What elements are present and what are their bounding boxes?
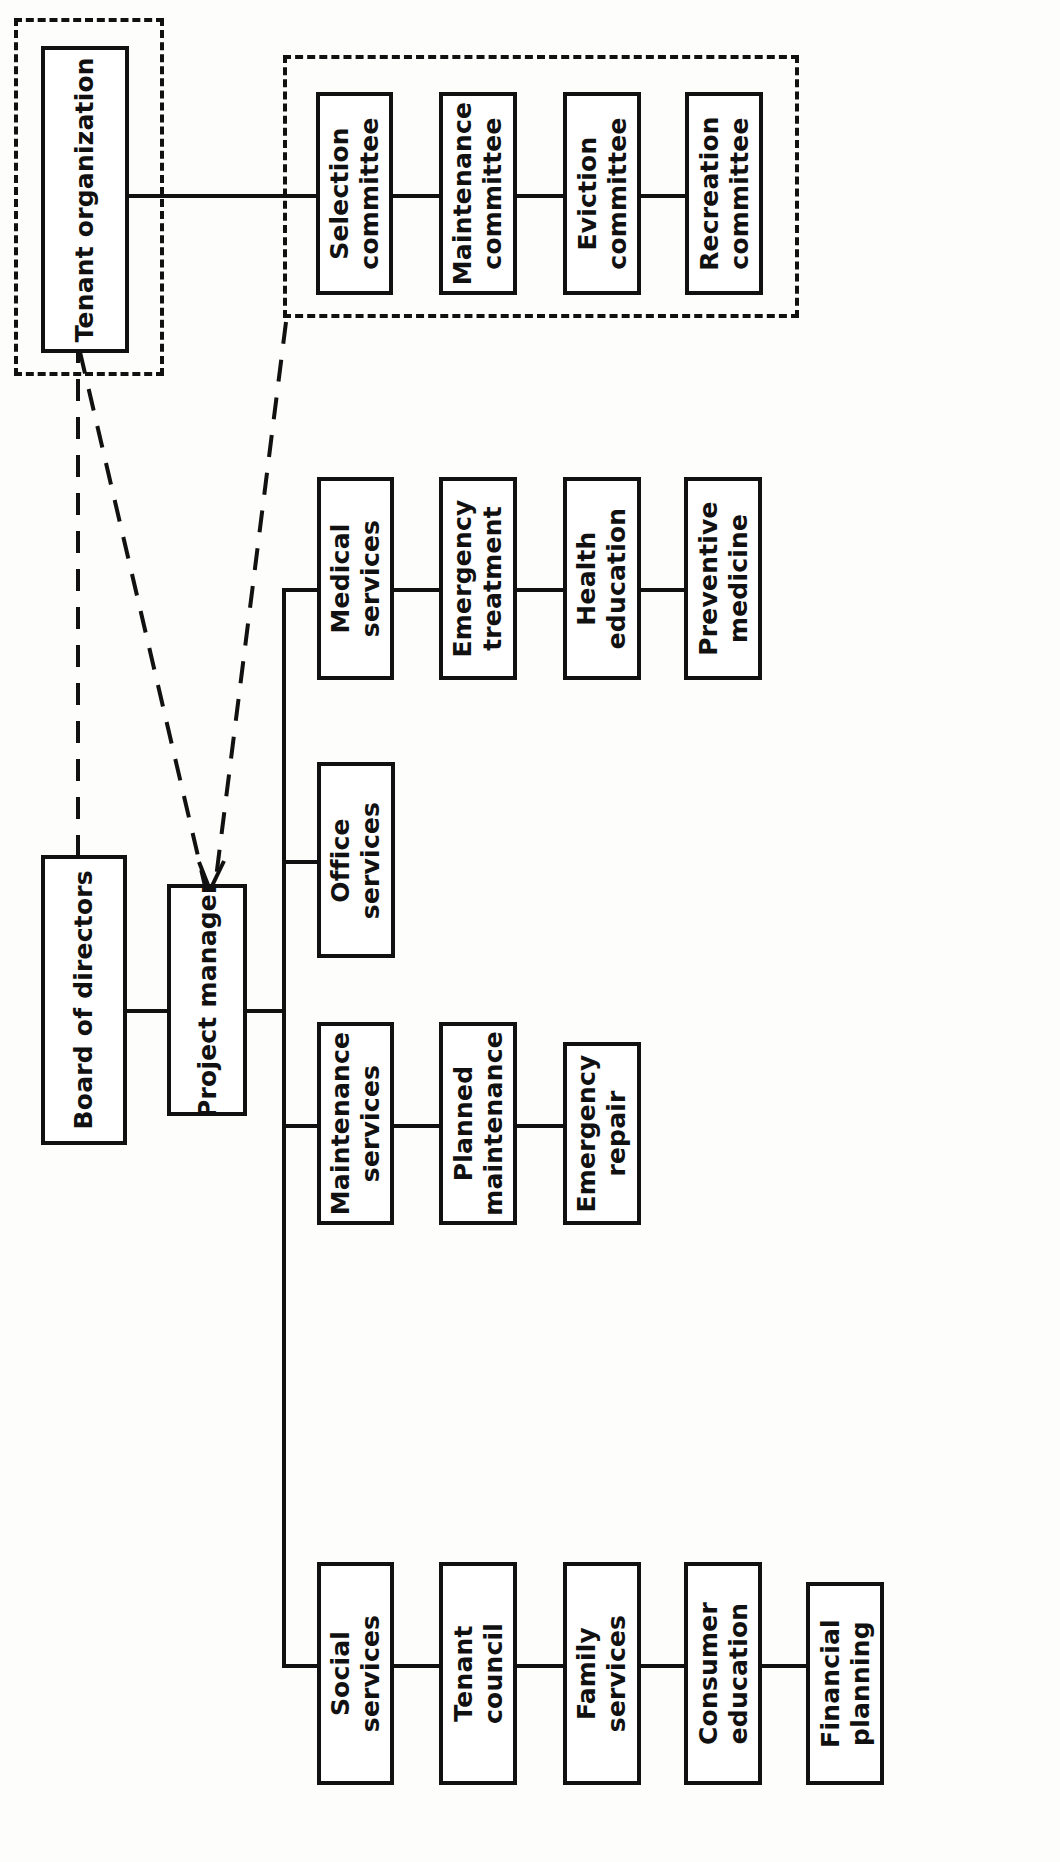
node-label: Officeservices bbox=[327, 801, 386, 918]
edge-maintenance-to-eviction bbox=[516, 194, 564, 198]
node-tenant-council[interactable]: Tenantcouncil bbox=[439, 1562, 517, 1785]
branch-trunk-vertical bbox=[282, 588, 286, 1668]
node-label: Tenantcouncil bbox=[449, 1623, 508, 1724]
node-office-services[interactable]: Officeservices bbox=[317, 762, 395, 958]
node-maintenance-committee[interactable]: Maintenancecommittee bbox=[439, 92, 517, 295]
node-label: Recreationcommittee bbox=[695, 116, 754, 271]
node-label: Preventivemedicine bbox=[694, 501, 753, 655]
node-emergency-treatment[interactable]: Emergencytreatment bbox=[439, 477, 517, 680]
node-consumer-education[interactable]: Consumereducation bbox=[684, 1562, 762, 1785]
edge-consumer-education-to-financial-planning bbox=[762, 1664, 808, 1668]
node-label: Healtheducation bbox=[573, 508, 632, 650]
edge-health-education-to-preventive-medicine bbox=[640, 588, 685, 592]
node-label: Board of directors bbox=[69, 870, 99, 1129]
node-label: Socialservices bbox=[326, 1615, 385, 1732]
edge-selection-to-maintenance bbox=[392, 194, 440, 198]
node-label: Medicalservices bbox=[326, 520, 385, 637]
node-label: Evictioncommittee bbox=[573, 117, 632, 269]
node-family-services[interactable]: Familyservices bbox=[563, 1562, 641, 1785]
node-recreation-committee[interactable]: Recreationcommittee bbox=[685, 92, 763, 295]
node-social-services[interactable]: Socialservices bbox=[317, 1562, 394, 1785]
node-tenant-organization[interactable]: Tenant organization bbox=[41, 46, 129, 353]
node-label: Tenant organization bbox=[70, 57, 100, 342]
node-health-education[interactable]: Healtheducation bbox=[563, 477, 641, 680]
node-label: Plannedmaintenance bbox=[449, 1031, 508, 1216]
edge-family-services-to-consumer-education bbox=[640, 1664, 685, 1668]
node-board-of-directors[interactable]: Board of directors bbox=[41, 855, 127, 1145]
node-planned-maintenance[interactable]: Plannedmaintenance bbox=[439, 1022, 517, 1225]
edge-board-to-project-manager bbox=[127, 1009, 168, 1013]
edge-emergency-treatment-to-health-education bbox=[516, 588, 563, 592]
node-medical-services[interactable]: Medicalservices bbox=[317, 477, 394, 680]
node-label: Project manager bbox=[192, 884, 222, 1116]
node-label: Familyservices bbox=[573, 1615, 632, 1732]
edge-trunk-to-maintenance-services bbox=[282, 1124, 318, 1128]
node-label: Maintenanceservices bbox=[326, 1032, 385, 1215]
node-label: Maintenancecommittee bbox=[449, 102, 508, 285]
edge-tenant-to-committees bbox=[128, 194, 318, 198]
node-financial-planning[interactable]: Financialplanning bbox=[806, 1582, 884, 1785]
node-preventive-medicine[interactable]: Preventivemedicine bbox=[684, 477, 762, 680]
edge-trunk-to-medical-services bbox=[282, 588, 318, 592]
edge-social-to-tenant-council bbox=[392, 1664, 439, 1668]
edge-maintenance-services-to-planned bbox=[392, 1124, 439, 1128]
edge-project-manager-stub bbox=[246, 1009, 286, 1013]
node-selection-committee[interactable]: Selectioncommittee bbox=[316, 92, 393, 295]
edge-tenant-council-to-family-services bbox=[516, 1664, 563, 1668]
edge-trunk-to-social-services bbox=[282, 1664, 318, 1668]
org-chart-canvas: Tenant organization Selectioncommittee M… bbox=[0, 0, 1060, 1862]
node-maintenance-services[interactable]: Maintenanceservices bbox=[317, 1022, 394, 1225]
node-label: Emergencyrepair bbox=[573, 1055, 632, 1213]
edge-eviction-to-recreation bbox=[640, 194, 686, 198]
node-label: Consumereducation bbox=[694, 1602, 753, 1745]
node-label: Emergencytreatment bbox=[449, 500, 508, 658]
edge-trunk-to-office-services bbox=[282, 860, 318, 864]
edge-planned-to-emergency-repair bbox=[516, 1124, 563, 1128]
node-eviction-committee[interactable]: Evictioncommittee bbox=[563, 92, 641, 295]
node-label: Financialplanning bbox=[816, 1619, 875, 1748]
node-emergency-repair[interactable]: Emergencyrepair bbox=[563, 1042, 641, 1225]
node-project-manager[interactable]: Project manager bbox=[167, 884, 247, 1116]
edge-medical-to-emergency-treatment bbox=[392, 588, 439, 592]
node-label: Selectioncommittee bbox=[325, 117, 384, 269]
